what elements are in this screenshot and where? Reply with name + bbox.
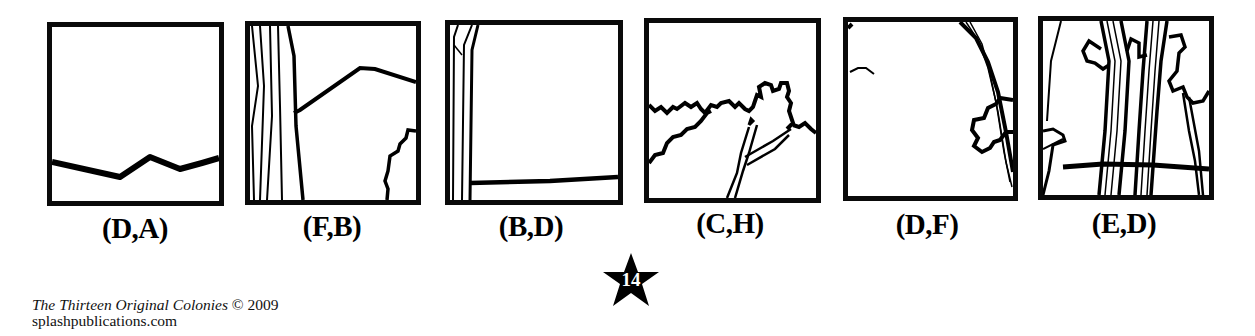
page-number: 14 xyxy=(601,269,661,291)
grid-panel-1 xyxy=(47,22,224,206)
grid-panel-2 xyxy=(245,21,421,205)
tree-canopy-drawing xyxy=(649,23,816,198)
grid-panel-4 xyxy=(644,18,821,203)
grid-panel-5 xyxy=(843,17,1018,201)
copyright-text: © 2009 xyxy=(232,296,279,313)
coordinate-label-5: (D,F) xyxy=(837,208,1017,241)
coordinate-label-1: (D,A) xyxy=(45,212,225,245)
curved-trunk-drawing xyxy=(848,22,1013,196)
trunk-ground-drawing xyxy=(450,25,618,200)
coordinate-label-2: (F,B) xyxy=(242,210,422,243)
page-number-badge: 14 xyxy=(601,252,661,308)
grid-panel-6 xyxy=(1038,16,1214,200)
publisher-website: splashpublications.com xyxy=(32,313,278,329)
coordinate-label-3: (B,D) xyxy=(441,210,621,243)
coordinate-label-6: (E,D) xyxy=(1034,207,1214,240)
grid-panel-3 xyxy=(445,20,623,205)
tree-trunk-hill-drawing xyxy=(250,26,416,200)
tree-trunks-drawing xyxy=(1043,21,1209,195)
coordinate-label-4: (C,H) xyxy=(640,207,820,240)
book-title: The Thirteen Original Colonies xyxy=(32,296,228,313)
horizon-line-drawing xyxy=(52,27,219,201)
footer-credit: The Thirteen Original Colonies © 2009 sp… xyxy=(32,297,278,329)
